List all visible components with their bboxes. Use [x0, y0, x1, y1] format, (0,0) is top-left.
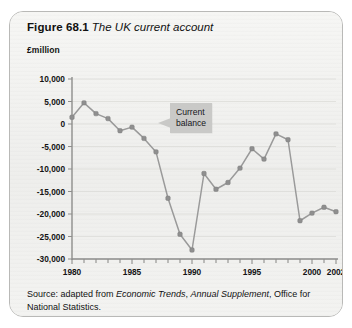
series-data-point: [154, 150, 158, 154]
series-data-point: [94, 111, 98, 115]
series-data-point: [262, 157, 266, 161]
source-note: Source: adapted from Economic Trends, An…: [27, 288, 327, 314]
current-balance-callout: Current balance: [170, 103, 212, 133]
y-tick-label: 0: [60, 119, 65, 129]
series-data-point: [130, 125, 134, 129]
chart-plot-area: 10,0005,0000-5,000-10,000-15,000-20,000-…: [10, 12, 343, 280]
series-data-point: [106, 116, 110, 120]
series-data-point: [334, 210, 338, 214]
series-data-point: [190, 248, 194, 252]
series-data-point: [250, 147, 254, 151]
series-data-point: [226, 180, 230, 184]
series-data-point: [70, 115, 74, 119]
series-data-point: [322, 205, 326, 209]
series-data-point: [142, 136, 146, 140]
x-tick-label: 1980: [63, 267, 82, 277]
line-chart: 10,0005,0000-5,000-10,000-15,000-20,000-…: [10, 12, 343, 280]
series-data-point: [202, 171, 206, 175]
y-tick-label: -20,000: [37, 209, 66, 219]
y-tick-label: -25,000: [37, 232, 66, 242]
series-data-point: [214, 187, 218, 191]
series-data-point: [310, 211, 314, 215]
series-data-point: [118, 129, 122, 133]
series-data-point: [298, 219, 302, 223]
callout-line-1: Current: [176, 107, 206, 118]
source-publication-2: Annual Supplement: [190, 289, 269, 299]
source-prefix: Source: adapted from: [27, 289, 116, 299]
callout-line-2: balance: [176, 118, 206, 129]
series-data-point: [274, 132, 278, 136]
series-data-point: [82, 101, 86, 105]
x-tick-label: 2002: [327, 267, 343, 277]
x-tick-label: 1985: [123, 267, 142, 277]
x-tick-label: 1990: [183, 267, 202, 277]
figure-card: Figure 68.1The UK current account £milli…: [9, 11, 343, 317]
y-tick-label: -10,000: [37, 164, 66, 174]
y-tick-label: -15,000: [37, 187, 66, 197]
series-data-point: [166, 196, 170, 200]
series-data-point: [238, 166, 242, 170]
series-data-point: [286, 138, 290, 142]
series-data-point: [178, 232, 182, 236]
y-tick-label: 5,000: [44, 97, 65, 107]
y-tick-label: -5,000: [41, 142, 65, 152]
x-tick-label: 1995: [243, 267, 262, 277]
x-tick-label: 2000: [303, 267, 322, 277]
y-tick-label: 10,000: [40, 74, 66, 84]
source-publication-1: Economic Trends: [116, 289, 185, 299]
y-tick-label: -30,000: [37, 254, 66, 264]
